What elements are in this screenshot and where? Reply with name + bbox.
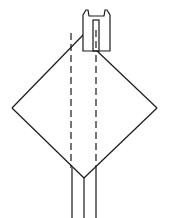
diagram-canvas <box>0 0 171 218</box>
diamond-edge-bottom-right <box>84 108 157 178</box>
connector-clip <box>83 10 110 51</box>
diamond-edge-bottom-left <box>12 108 84 178</box>
fold-lines <box>71 33 96 168</box>
diagram-svg <box>0 0 171 218</box>
bottom-lines <box>72 168 96 218</box>
diamond-shape <box>12 34 157 178</box>
diamond-edge-top-left <box>12 34 84 108</box>
diamond-edge-top-right <box>96 50 157 108</box>
